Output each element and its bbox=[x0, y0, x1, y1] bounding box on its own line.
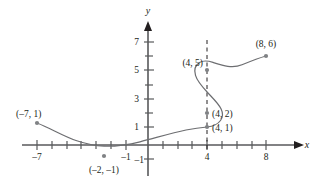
x-axis: x bbox=[22, 139, 310, 150]
x-tick-label-neg1: –1 bbox=[120, 152, 131, 162]
data-point bbox=[205, 68, 209, 72]
y-tick-label-3: 3 bbox=[134, 94, 139, 104]
point-label-4-5: (4, 5) bbox=[182, 58, 203, 69]
data-point bbox=[205, 111, 209, 115]
y-axis-label: y bbox=[145, 5, 151, 16]
point-label-4-2: (4, 2) bbox=[212, 109, 233, 120]
y-axis-arrow-icon bbox=[144, 21, 152, 31]
data-point bbox=[264, 54, 268, 58]
point-label-8-6: (8, 6) bbox=[256, 39, 277, 50]
data-point bbox=[205, 125, 209, 129]
y-axis-ticks bbox=[144, 42, 154, 159]
x-axis-label: x bbox=[304, 139, 310, 150]
point-label-4-1: (4, 1) bbox=[212, 123, 233, 134]
y-tick-label-neg1: –1 bbox=[134, 155, 145, 165]
y-tick-label-5: 5 bbox=[134, 65, 139, 75]
y-axis: y bbox=[144, 5, 152, 176]
x-tick-label-8: 8 bbox=[264, 152, 269, 162]
graph-figure: x y bbox=[0, 0, 320, 186]
x-axis-arrow-icon bbox=[294, 141, 304, 149]
y-tick-label-1: 1 bbox=[134, 122, 139, 132]
data-point bbox=[35, 121, 39, 125]
point-label-neg7-1: (–7, 1) bbox=[16, 109, 41, 120]
point-label-neg2-neg1: (–2, –1) bbox=[89, 165, 119, 176]
x-tick-label-4: 4 bbox=[205, 152, 210, 162]
data-point bbox=[102, 154, 106, 158]
coordinate-plane-graph: x y bbox=[0, 0, 320, 186]
curve-reference-ignore bbox=[37, 60, 221, 146]
x-tick-label-neg7: –7 bbox=[31, 152, 42, 162]
y-tick-label-7: 7 bbox=[134, 37, 139, 47]
